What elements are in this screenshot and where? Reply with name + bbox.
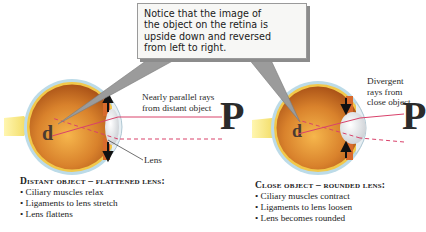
label-line: from distant object xyxy=(142,103,214,114)
close-object-p: P xyxy=(402,96,426,136)
close-bullet-list: Ciliary muscles contract Ligaments to le… xyxy=(255,191,385,223)
close-caption-title: Close object – rounded lens: xyxy=(255,180,385,191)
lens-rounded xyxy=(340,112,366,144)
list-item: Lens becomes rounded xyxy=(255,213,385,224)
list-item: Ligaments to lens loosen xyxy=(255,202,385,213)
close-caption: Close object – rounded lens: Ciliary mus… xyxy=(255,180,385,223)
callout-note: Notice that the image of the object on t… xyxy=(137,3,307,59)
eye-accommodation-diagram: d d xyxy=(0,0,426,232)
distant-caption-title: Distant object – flattened lens: xyxy=(20,176,165,187)
callout-line: the object on the retina is xyxy=(144,19,300,30)
distant-caption: Distant object – flattened lens: Ciliary… xyxy=(20,176,165,219)
callout-line: upside down and reversed xyxy=(144,31,300,42)
list-item: Ligaments to lens stretch xyxy=(20,198,165,209)
right-eye: d xyxy=(252,81,366,175)
distant-object-p: P xyxy=(220,96,244,136)
retina-image-d: d xyxy=(42,122,53,144)
label-line: Divergent xyxy=(367,76,411,87)
callout-line: Notice that the image of xyxy=(144,8,300,19)
callout-line: from left to right. xyxy=(144,42,300,53)
retina-image-d: d xyxy=(292,121,302,141)
distant-rays-label: Nearly parallel rays from distant object xyxy=(142,92,214,113)
label-line: Nearly parallel rays xyxy=(142,92,214,103)
list-item: Lens flattens xyxy=(20,209,165,220)
list-item: Ciliary muscles contract xyxy=(255,191,385,202)
lens-flattened xyxy=(105,109,119,145)
list-item: Ciliary muscles relax xyxy=(20,187,165,198)
lens-label: Lens xyxy=(144,155,162,166)
distant-bullet-list: Ciliary muscles relax Ligaments to lens … xyxy=(20,187,165,219)
